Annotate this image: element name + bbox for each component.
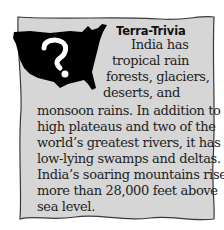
- body-line: India has: [131, 37, 189, 52]
- us-map-question-icon: [10, 22, 110, 92]
- body-line: low-lying swamps and deltas.: [37, 151, 221, 166]
- body-line: world’s greatest rivers, it has: [37, 135, 221, 150]
- body-line: monsoon rains. In addition to: [37, 103, 221, 118]
- body-line: forests, glaciers,: [106, 69, 209, 84]
- body-line: deserts, and: [103, 85, 180, 100]
- body-line: more than 28,000 feet above: [37, 183, 218, 198]
- box-title: Terra-Trivia: [116, 23, 185, 38]
- body-line: sea level.: [37, 199, 95, 214]
- body-line: India’s soaring mountains rise: [37, 167, 224, 182]
- body-line: high plateaus and two of the: [37, 119, 216, 134]
- terra-trivia-box: Terra-Trivia India has tropical rain for…: [0, 0, 224, 230]
- body-line: tropical rain: [112, 53, 189, 68]
